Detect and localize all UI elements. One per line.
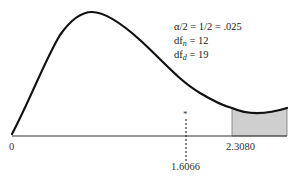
df-numerator-annotation: dfn = 12: [174, 36, 208, 48]
test-statistic-marker: *: [183, 110, 188, 119]
df-denominator-annotation: dfd = 19: [174, 50, 208, 62]
x-tick-label-critical-value: 2.3080: [226, 142, 255, 153]
alpha-annotation: α/2 = 1/2 = .025: [174, 22, 242, 33]
x-tick-label-test-statistic: 1.6066: [171, 162, 200, 173]
x-tick-label-zero: 0: [9, 142, 14, 153]
